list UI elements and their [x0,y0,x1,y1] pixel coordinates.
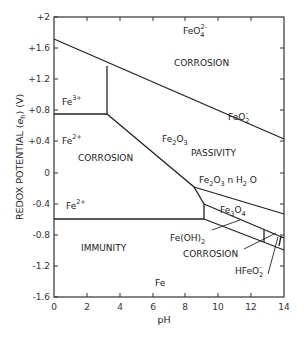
label-feo2: FeO2- [228,109,249,125]
y-tick-labels: +2 +1.6 +1.2 +0.8 +0.4 0 -0.4 -0.8 -1.2 … [28,12,50,302]
pourbaix-diagram: +2 +1.6 +1.2 +0.8 +0.4 0 -0.4 -0.8 -1.2 … [0,0,305,341]
boundary-hfeo2-right [279,236,281,246]
label-corrosion-top: CORROSION [174,58,229,68]
phase-boundaries [54,39,284,250]
boundary-upper-oxygen [54,39,284,139]
region-labels: FeO42- CORROSION FeO2- Fe3+ Fe2+ CORROSI… [62,23,263,288]
svg-text:0: 0 [44,168,50,178]
label-hfeo2: HFeO2- [235,263,263,279]
label-fe2-lower: Fe2+ [66,198,86,211]
svg-text:-1.6: -1.6 [32,292,50,302]
label-fe2o3: Fe2O3 [162,134,188,147]
svg-text:+1.6: +1.6 [28,43,50,53]
svg-text:6: 6 [150,302,156,312]
label-fe2o3-nh2o: Fe2O3 n H2 O [199,175,257,188]
svg-text:10: 10 [212,302,224,312]
svg-text:4: 4 [117,302,123,312]
label-passivity: PASSIVITY [191,148,236,158]
svg-text:12: 12 [245,302,256,312]
label-feoh2: Fe(OH)2 [170,233,205,246]
svg-text:-0.8: -0.8 [32,230,50,240]
label-fe2-upper: Fe2+ [62,133,82,146]
label-fe: Fe [155,278,166,288]
y-ticks-right [280,48,284,266]
label-corrosion-left: CORROSION [78,153,133,163]
svg-text:0: 0 [51,302,57,312]
svg-text:-0.4: -0.4 [32,199,50,209]
x-axis-title: pH [157,314,170,325]
svg-text:+0.8: +0.8 [28,105,50,115]
label-corrosion-right: CORROSION [183,249,238,259]
svg-text:-1.2: -1.2 [32,261,50,271]
svg-text:+2: +2 [37,12,50,22]
svg-text:2: 2 [84,302,90,312]
svg-text:+1.2: +1.2 [28,74,50,84]
x-tick-labels: 0 2 4 6 8 10 12 14 [51,302,290,312]
label-fe3o4: Fe3O4 [220,205,246,218]
svg-text:+0.4: +0.4 [28,136,50,146]
svg-text:8: 8 [182,302,188,312]
svg-text:14: 14 [278,302,290,312]
label-immunity: IMMUNITY [81,243,127,253]
y-axis-title: REDOX POTENTIAL (eh) (V) [14,94,27,220]
label-fe3: Fe3+ [62,94,82,107]
label-feo4: FeO42- [183,23,208,39]
